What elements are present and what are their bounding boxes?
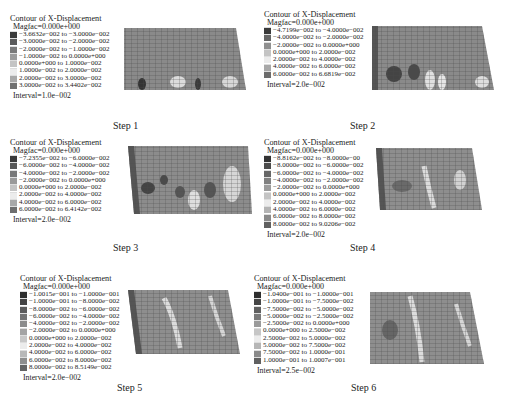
legend-swatch [10,82,17,89]
legend-swatch [10,199,17,206]
legend: Contour of X-Displacement Magfac=0.000e+… [10,138,109,224]
step-label: Step 5 [117,382,142,393]
legend-range-text: 6.0000e−002 to 6.6819e−002 [273,71,356,78]
legend-swatch [264,199,271,206]
legend-swatch [264,170,271,177]
legend-range-text: 8.0000e−002 to 8.5149e−002 [29,364,112,371]
legend-swatch [264,56,271,63]
legend: Contour of X-Displacement Magfac=0.000e+… [264,138,363,238]
legend-entry: 8.0000e−002 to 9.0206e−002 [264,221,363,228]
legend-rows: −7.2355e−002 to −6.0000e−002−6.0000e−002… [10,155,109,213]
legend-interval: Interval=2.0e−002 [20,374,119,381]
legend-entry: 6.0000e−002 to 6.6819e−002 [264,71,363,78]
legend-swatch [264,71,271,78]
legend-swatch [254,291,261,298]
legend-swatch [254,306,261,313]
legend-swatch [10,184,17,191]
legend-swatch [254,313,261,320]
step-label: Step 4 [350,242,375,253]
legend-swatch [20,306,27,313]
legend-range-text: 8.0000e−002 to 9.0206e−002 [273,221,356,228]
legend-range-text: 1.0000e−001 to 1.0007e−001 [263,357,346,364]
legend-swatch [254,320,261,327]
legend-swatch [10,68,17,75]
step-label: Step 1 [113,120,138,131]
legend-swatch [254,350,261,357]
panel-step-5: Contour of X-Displacement Magfac=0.000e+… [0,274,253,409]
legend-swatch [10,192,17,199]
mesh-contour-plot [120,24,255,94]
mesh-contour-plot [364,24,507,94]
legend-swatch [264,162,271,169]
legend-interval: Interval=1.0e−002 [10,92,109,99]
mesh-contour-plot [124,286,248,358]
legend-swatch [254,342,261,349]
legend-swatch [10,38,17,45]
step-label: Step 2 [350,120,375,131]
legend-swatch [264,49,271,56]
legend-entry: 3.0000e−002 to 3.4402e−002 [10,82,109,89]
legend-range-text: 6.0000e−002 to 6.4142e−002 [19,206,102,213]
panel-step-2: Contour of X-Displacement Magfac=0.000e+… [254,10,507,145]
step-label: Step 3 [113,242,138,253]
legend-swatch [264,27,271,34]
legend-range-text: 3.0000e−002 to 3.4402e−002 [19,82,102,89]
legend-swatch [10,46,17,53]
legend-swatch [10,206,17,213]
legend-swatch [20,320,27,327]
legend-swatch [20,291,27,298]
legend-swatch [20,335,27,342]
legend-swatch [10,177,17,184]
legend-swatch [20,328,27,335]
legend-swatch [264,221,271,228]
legend-rows: −1.0015e−001 to −1.0000e−001−1.0000e−001… [20,291,119,371]
mesh-contour-plot [370,284,494,364]
legend-swatch [254,335,261,342]
legend-swatch [264,177,271,184]
panel-step-6: Contour of X-Displacement Magfac=0.000e+… [254,274,507,409]
legend-swatch [10,53,17,60]
panel-step-3: Contour of X-Displacement Magfac=0.000e+… [0,138,253,273]
legend-rows: −1.0400e−001 to −1.0000e−001−1.0000e−001… [254,291,353,364]
legend-swatch [20,350,27,357]
legend-rows: −3.6632e−002 to −3.0000e−002−3.0000e−002… [10,31,109,89]
legend-rows: −8.8162e−002 to −8.0000e−00−8.0000e−002 … [264,155,363,228]
legend-interval: Interval=2.5e−002 [254,367,353,374]
legend-entry: 1.0000e−001 to 1.0007e−001 [254,357,353,364]
step-label: Step 6 [351,382,376,393]
legend-swatch [20,298,27,305]
legend-swatch [10,170,17,177]
legend-swatch [264,206,271,213]
legend-swatch [254,298,261,305]
legend-swatch [254,328,261,335]
legend: Contour of X-Displacement Magfac=0.000e+… [10,14,109,100]
mesh-contour-plot [124,144,254,216]
legend-interval: Interval=2.0e−002 [264,231,363,238]
panel-step-1: Contour of X-Displacement Magfac=0.000e+… [0,14,253,149]
legend-swatch [20,313,27,320]
legend-swatch [264,155,271,162]
legend-swatch [264,42,271,49]
legend-swatch [20,364,27,371]
legend-swatch [264,34,271,41]
legend-rows: −4.7199e−002 to −4.0000e−002−4.0000e−002… [264,27,363,78]
legend-entry: 8.0000e−002 to 8.5149e−002 [20,364,119,371]
legend-swatch [10,60,17,67]
legend-interval: Interval=2.0e−002 [264,81,363,88]
legend-swatch [10,75,17,82]
legend: Contour of X-Displacement Magfac=0.000e+… [20,274,119,382]
legend: Contour of X-Displacement Magfac=0.000e+… [264,10,363,88]
legend-interval: Interval=2.0e−002 [10,216,109,223]
legend-swatch [10,162,17,169]
legend-swatch [10,31,17,38]
legend: Contour of X-Displacement Magfac=0.000e+… [254,274,353,374]
legend-swatch [20,342,27,349]
legend-swatch [264,192,271,199]
legend-swatch [254,357,261,364]
legend-swatch [264,214,271,221]
legend-swatch [264,184,271,191]
panel-step-4: Contour of X-Displacement Magfac=0.000e+… [254,138,507,273]
legend-swatch [10,155,17,162]
legend-entry: 6.0000e−002 to 6.4142e−002 [10,206,109,213]
mesh-contour-plot [372,146,490,216]
